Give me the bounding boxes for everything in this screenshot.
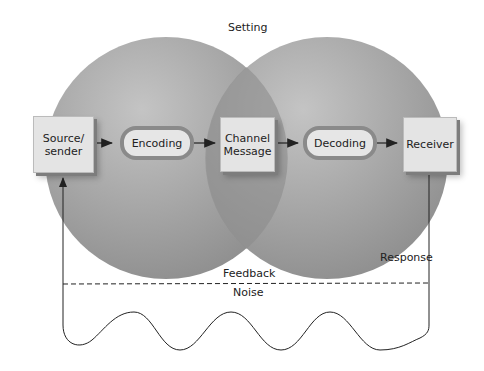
response-label: Response <box>380 251 433 264</box>
setting-label: Setting <box>228 21 267 34</box>
diagram-canvas <box>0 0 484 371</box>
node-source[interactable]: Source/sender <box>33 116 94 173</box>
node-encoding[interactable]: Encoding <box>120 126 194 160</box>
source-line1: Source/ <box>43 132 85 145</box>
receiver-label: Receiver <box>406 138 454 151</box>
node-channel[interactable]: ChannelMessage <box>220 117 275 172</box>
feedback-dashed-line <box>63 283 429 284</box>
noise-wave <box>63 312 429 350</box>
channel-line1: Channel <box>223 132 271 145</box>
feedback-label: Feedback <box>223 267 275 280</box>
channel-line2: Message <box>223 145 271 158</box>
noise-label: Noise <box>233 286 264 299</box>
node-decoding[interactable]: Decoding <box>303 126 377 160</box>
node-receiver[interactable]: Receiver <box>403 117 457 172</box>
source-line2: sender <box>43 145 85 158</box>
